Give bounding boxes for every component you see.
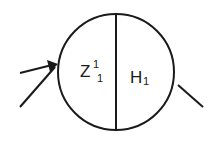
right-label-subscript: 1 bbox=[143, 76, 149, 87]
outgoing-arc bbox=[178, 85, 203, 107]
incoming-arc-upper bbox=[20, 65, 52, 73]
incoming-arc-lower bbox=[20, 67, 55, 107]
left-label-superscript: 1 bbox=[93, 59, 99, 70]
left-section-label: Z 1 1 bbox=[80, 63, 90, 80]
right-section-label: H 1 bbox=[130, 69, 142, 86]
diagram-canvas bbox=[0, 0, 212, 143]
left-label-base: Z bbox=[80, 62, 90, 81]
right-label-base: H bbox=[130, 68, 142, 87]
left-label-subscript: 1 bbox=[97, 73, 103, 84]
